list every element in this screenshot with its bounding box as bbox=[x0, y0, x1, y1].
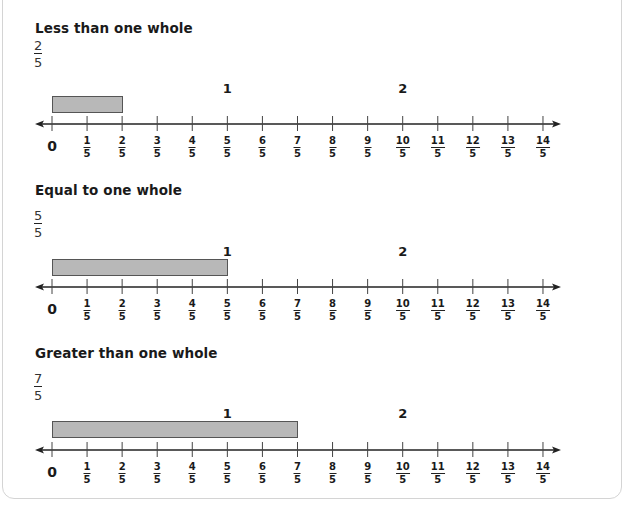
tick-label-fraction: 15 bbox=[84, 462, 91, 485]
section-greater-than-one: Greater than one whole 7 5 0152535455565… bbox=[0, 0, 593, 164]
tick-label-fraction: 55 bbox=[224, 462, 231, 485]
whole-number-label: 2 bbox=[398, 406, 407, 421]
tick-label-fraction: 145 bbox=[536, 462, 550, 485]
tick-label-zero: 0 bbox=[47, 464, 57, 480]
tick-label-fraction: 85 bbox=[329, 462, 336, 485]
tick-label-fraction: 65 bbox=[259, 462, 266, 485]
tick-label-fraction: 125 bbox=[466, 462, 480, 485]
tick-label-fraction: 95 bbox=[364, 462, 371, 485]
tick-label-fraction: 35 bbox=[154, 462, 161, 485]
tick-label-fraction: 75 bbox=[294, 462, 301, 485]
whole-number-label: 1 bbox=[223, 406, 232, 421]
tick-label-fraction: 25 bbox=[119, 462, 126, 485]
tick-label-fraction: 115 bbox=[431, 462, 445, 485]
tick-label-fraction: 135 bbox=[501, 462, 515, 485]
tick-label-fraction: 45 bbox=[189, 462, 196, 485]
tick-label-fraction: 105 bbox=[396, 462, 410, 485]
